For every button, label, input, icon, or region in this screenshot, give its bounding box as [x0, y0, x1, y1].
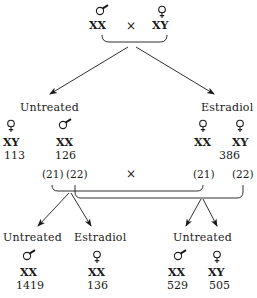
gen2-right-untreated-xx-genotype: XX: [168, 267, 185, 278]
parent-bracket: [102, 35, 167, 42]
gen1-untreated-xx-count: 126: [55, 150, 76, 161]
female-icon: [159, 6, 166, 18]
female-icon: [237, 120, 244, 132]
arrow-to-untreated: [50, 47, 128, 94]
gen1-untreated-xx-genotype: XX: [56, 137, 73, 148]
gen1-estradiol-xy-genotype: XY: [232, 137, 248, 148]
gen2-left-estradiol-genotype: XX: [88, 267, 105, 278]
male-icon: [96, 5, 108, 14]
female-icon: [8, 120, 15, 132]
gen1-untreated-label: Untreated: [20, 102, 79, 113]
line-id-22-left: (22): [66, 169, 88, 180]
arrow-to-right-untreated-b: [203, 199, 217, 226]
gen1-estradiol-count: 386: [219, 150, 240, 161]
gen2-left-untreated-genotype: XX: [20, 267, 37, 278]
cross-symbol: ×: [126, 20, 136, 32]
gen2-right-untreated-xy-genotype: XY: [208, 267, 224, 278]
female-icon: [214, 251, 221, 263]
bracket-22x22: [75, 185, 243, 198]
line-id-22-right: (22): [232, 169, 254, 180]
arrow-to-right-untreated-a: [186, 199, 201, 226]
gen2-left-untreated-count: 1419: [16, 280, 44, 291]
gen2-left-estradiol-label: Estradiol: [74, 232, 126, 243]
female-icon: [200, 120, 207, 132]
gen1-estradiol-label: Estradiol: [201, 102, 253, 113]
male-icon: [23, 250, 35, 259]
arrow-to-estradiol: [136, 47, 214, 94]
gen2-right-untreated-label: Untreated: [173, 232, 232, 243]
gen2-right-untreated-xy-count: 505: [209, 280, 230, 291]
gen2-right-untreated-xx-count: 529: [167, 280, 188, 291]
gen1-untreated-xy-count: 113: [4, 150, 25, 161]
cross-symbol-2: ×: [126, 168, 136, 180]
gen1-estradiol-xx-genotype: XX: [194, 137, 211, 148]
parent-male-genotype: XX: [89, 20, 106, 31]
gen2-left-estradiol-count: 136: [87, 280, 108, 291]
female-icon: [94, 251, 101, 263]
line-id-21-right: (21): [193, 169, 215, 180]
gen2-left-untreated-label: Untreated: [3, 232, 62, 243]
line-id-21-left: (21): [42, 169, 64, 180]
arrow-to-left-untreated: [38, 193, 69, 226]
gen1-untreated-xy-genotype: XY: [3, 137, 19, 148]
male-icon: [59, 119, 71, 128]
male-icon: [174, 250, 186, 259]
parent-female-genotype: XY: [152, 20, 168, 31]
